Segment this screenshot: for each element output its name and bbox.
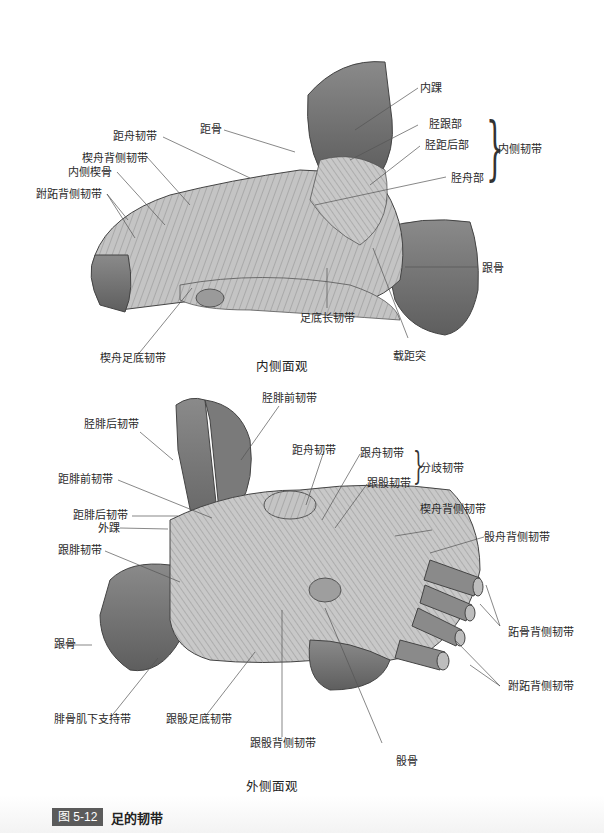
label-posterior-tibiofibular-ligament: 胫腓后韧带	[84, 418, 139, 431]
caption-lateral-view: 外侧面观	[246, 776, 298, 795]
label-talus: 距骨	[200, 123, 222, 136]
foot-illustrations	[0, 0, 604, 833]
figure-title: 足的韧带	[111, 808, 163, 827]
label-metatarsal-dorsal-ligament: 跖骨背侧韧带	[508, 626, 574, 639]
medial-view-foot	[91, 62, 478, 335]
label-calcaneocuboid-plantar-ligament: 跟骰足底韧带	[166, 713, 232, 726]
label-talonavicular-ligament: 距舟韧带	[113, 130, 157, 143]
caption-medial-view: 内侧面观	[256, 356, 308, 375]
label-bifurcate-ligament-group: 分歧韧带	[420, 462, 464, 475]
label-calcaneofibular-ligament: 跟腓韧带	[58, 544, 102, 557]
label-cuboideonavicular-dorsal-ligament: 骰舟背侧韧带	[484, 531, 550, 544]
label-talonavicular-ligament-lateral: 距舟韧带	[292, 444, 336, 457]
label-inferior-peroneal-retinaculum: 腓骨肌下支持带	[54, 713, 131, 726]
label-anterior-tibiofibular-ligament: 胫腓前韧带	[262, 392, 317, 405]
label-calcaneocuboid-ligament: 跟骰韧带	[367, 477, 411, 490]
label-anterior-talofibular-ligament: 距腓前韧带	[58, 473, 113, 486]
label-posterior-talofibular-ligament: 距腓后韧带	[73, 509, 128, 522]
label-tarsometatarsal-dorsal-ligament-lateral: 跗跖背侧韧带	[508, 680, 574, 693]
label-calcaneonavicular-ligament: 跟舟韧带	[360, 447, 404, 460]
foot-ligaments-figure: 内踝 距骨 距舟韧带 楔舟背侧韧带 内侧楔骨 跗跖背侧韧带 胫跟部 胫距后部 胫…	[0, 0, 604, 833]
label-medial-ligament-group: 内侧韧带	[498, 143, 542, 156]
label-calcaneus-lateral: 跟骨	[54, 638, 76, 651]
label-calcaneus-medial: 跟骨	[482, 262, 504, 275]
figure-caption: 图 5-12 足的韧带	[52, 808, 163, 826]
label-sustentaculum-tali: 载距突	[393, 350, 426, 363]
label-posterior-tibiotalar-part: 胫距后部	[425, 139, 469, 152]
label-cuneonavicular-dorsal-ligament-lateral: 楔舟背侧韧带	[420, 503, 486, 516]
figure-number-badge: 图 5-12	[52, 808, 103, 826]
label-medial-malleolus: 内踝	[420, 82, 442, 95]
lateral-view-foot	[100, 398, 483, 690]
label-long-plantar-ligament: 足底长韧带	[300, 312, 355, 325]
label-calcaneocuboid-dorsal-ligament: 跟骰背侧韧带	[250, 737, 316, 750]
label-tibionavicular-part: 胫舟部	[451, 172, 484, 185]
label-cuneonavicular-dorsal-ligament: 楔舟背侧韧带	[82, 152, 148, 165]
label-lateral-malleolus: 外踝	[98, 522, 120, 535]
label-cuboid: 骰骨	[396, 755, 418, 768]
label-medial-cuneiform: 内侧楔骨	[68, 166, 112, 179]
label-tibiocalcaneal-part: 胫跟部	[429, 118, 462, 131]
label-cuneonavicular-plantar-ligament: 楔舟足底韧带	[100, 352, 166, 365]
label-tarsometatarsal-dorsal-ligament: 跗跖背侧韧带	[36, 188, 102, 201]
